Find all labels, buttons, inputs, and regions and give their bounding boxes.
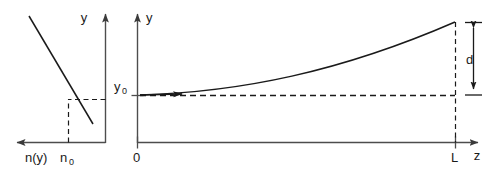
- origin-label: 0: [133, 150, 140, 165]
- svg-text:y: y: [114, 79, 121, 94]
- ray-deflection-figure: y n(y) n 0: [0, 0, 502, 169]
- length-label: L: [451, 150, 458, 165]
- refractive-index-line: [29, 16, 93, 124]
- bent-ray-curve: [140, 22, 455, 95]
- svg-text:0: 0: [69, 157, 74, 167]
- y0-label: y 0: [114, 79, 127, 96]
- deflection-label: d: [466, 52, 473, 67]
- left-plot-n-axis-label: n(y): [25, 150, 47, 165]
- left-plot-group: y n(y) n 0: [17, 10, 106, 167]
- left-plot-n0-tick-label: n 0: [60, 150, 74, 167]
- right-plot-y-axis-label: y: [146, 10, 153, 25]
- svg-text:n: n: [60, 150, 67, 165]
- left-plot-y-axis-label: y: [81, 10, 88, 25]
- right-plot-z-axis-label: z: [474, 148, 481, 163]
- right-plot-group: y z 0 L y 0 d: [114, 10, 482, 165]
- svg-text:0: 0: [122, 86, 127, 96]
